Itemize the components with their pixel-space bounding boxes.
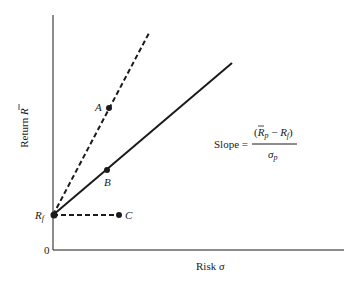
formula-lhs: Slope = [214, 138, 248, 150]
point-rf [51, 212, 58, 219]
x-axis-label: Risk σ [196, 260, 225, 272]
y-axis-label: Return R [18, 104, 30, 148]
label-c: C [125, 209, 133, 221]
capital-allocation-diagram: Return R 0 Risk σ Rf A B C Slope = (Rp −… [0, 0, 358, 286]
origin-label: 0 [44, 244, 50, 256]
formula-denominator: σp [268, 148, 277, 162]
point-c [116, 212, 122, 218]
point-b [104, 167, 110, 173]
line-rf-to-a [53, 33, 149, 215]
line-rf-to-b [53, 63, 232, 215]
label-rf: Rf [34, 209, 46, 223]
formula-numerator: (Rp − Rf) [254, 126, 293, 140]
slope-formula: Slope = (Rp − Rf) σp [214, 126, 297, 162]
label-a: A [94, 101, 102, 113]
svg-text:Return R: Return R [18, 108, 30, 148]
point-a [106, 105, 112, 111]
label-b: B [104, 176, 111, 188]
